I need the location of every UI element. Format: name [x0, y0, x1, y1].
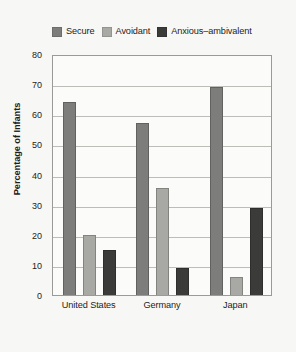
y-axis-tick-label: 80	[32, 51, 42, 60]
y-axis-tick-label: 50	[32, 141, 42, 150]
legend-label: Secure	[66, 27, 95, 36]
bar	[156, 188, 169, 295]
x-axis-tick-label: United States	[62, 300, 116, 310]
x-axis-tick-label: Germany	[143, 300, 180, 310]
plot-area	[52, 55, 272, 296]
y-axis-tick-label: 10	[32, 261, 42, 270]
bar	[210, 87, 223, 295]
attachment-styles-bar-chart: SecureAvoidantAnxious–ambivalent 0102030…	[0, 0, 296, 352]
bar-group	[126, 56, 199, 295]
legend-entry: Avoidant	[102, 27, 151, 37]
y-axis-tick-label: 60	[32, 111, 42, 120]
y-axis-tick-label: 30	[32, 201, 42, 210]
legend-label: Anxious–ambivalent	[171, 27, 251, 36]
bar-group	[200, 56, 273, 295]
y-axis-tick-label: 20	[32, 231, 42, 240]
bar	[230, 277, 243, 295]
legend-swatch-icon	[52, 27, 62, 37]
bar	[250, 208, 263, 295]
bar-group	[53, 56, 126, 295]
chart-legend: SecureAvoidantAnxious–ambivalent	[52, 24, 280, 40]
bar	[63, 102, 76, 295]
bar	[83, 235, 96, 295]
legend-swatch-icon	[102, 27, 112, 37]
legend-entry: Secure	[52, 27, 95, 37]
legend-entry: Anxious–ambivalent	[157, 27, 251, 37]
y-axis-tick-label: 0	[37, 292, 42, 301]
y-axis-tick-labels: 01020304050607080	[0, 55, 48, 296]
bar-groups	[53, 56, 271, 295]
x-axis-tick-labels: United StatesGermanyJapan	[52, 300, 272, 316]
bar	[103, 250, 116, 295]
y-axis-tick-label: 70	[32, 81, 42, 90]
legend-label: Avoidant	[116, 27, 151, 36]
x-axis-tick-label: Japan	[223, 300, 248, 310]
y-axis-title: Percentage of Infants	[12, 69, 22, 229]
y-axis-tick-label: 40	[32, 171, 42, 180]
legend-swatch-icon	[157, 27, 167, 37]
bar	[176, 268, 189, 295]
bar	[136, 123, 149, 295]
